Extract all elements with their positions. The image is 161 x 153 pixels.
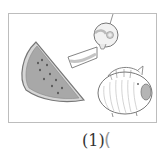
answer-blank[interactable]: ( [104, 129, 111, 150]
illustration [0, 0, 161, 153]
question-number: (1) [82, 131, 105, 150]
wind-chime-icon [68, 14, 118, 68]
pig-icon [98, 66, 152, 117]
watermelon-icon [22, 42, 84, 102]
